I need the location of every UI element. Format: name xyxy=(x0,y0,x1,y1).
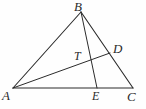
point-label-c: C xyxy=(127,90,136,103)
segment-ab xyxy=(13,12,81,88)
point-label-a: A xyxy=(2,89,10,102)
point-label-b: B xyxy=(74,0,82,13)
point-label-d: D xyxy=(113,42,122,55)
point-label-t: T xyxy=(74,50,81,62)
geometry-figure: B D T A E C xyxy=(0,0,146,109)
point-label-e: E xyxy=(92,90,99,102)
triangle-diagram-svg xyxy=(0,0,146,109)
